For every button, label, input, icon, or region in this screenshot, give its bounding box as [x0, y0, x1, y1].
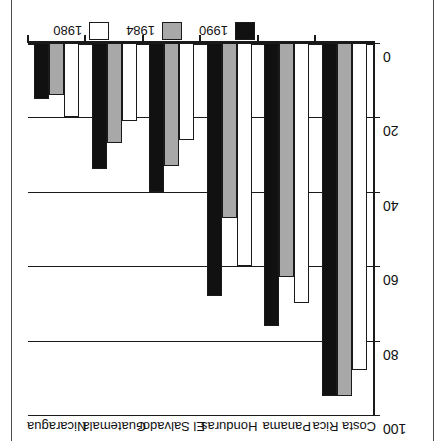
bar-group: Panama: [258, 43, 316, 415]
category-tick: [27, 35, 29, 43]
bar: [164, 43, 179, 166]
bar: [149, 43, 164, 192]
tick-label-20: 20: [383, 124, 419, 138]
category-label: Costa Rica: [312, 419, 376, 434]
legend-entry[interactable]: 1984: [126, 22, 182, 40]
legend-label: 1984: [126, 25, 155, 38]
bar-chart-figure: 020406080100 Costa RicaPanamaHondurasEl …: [14, 4, 430, 437]
bar-group: El Salvador: [143, 43, 201, 415]
legend-swatch-1990: [235, 22, 255, 40]
tick-mark-40: [373, 192, 380, 193]
bar: [207, 43, 222, 296]
legend-label: 1990: [199, 25, 228, 38]
category-label: Panama: [263, 419, 311, 434]
legend-swatch-1980: [89, 22, 109, 40]
bar-group: Nicaragua: [28, 43, 86, 415]
tick-label-60: 60: [383, 273, 419, 287]
bar: [122, 43, 137, 121]
tick-label-0: 0: [383, 50, 419, 64]
bar: [264, 43, 279, 326]
category-label: Guatemala: [82, 419, 146, 434]
bar: [49, 43, 64, 95]
bar: [64, 43, 79, 117]
tick-label-40: 40: [383, 199, 419, 213]
bar: [237, 43, 252, 266]
bar: [352, 43, 367, 370]
category-label: Honduras: [201, 419, 257, 434]
tick-label-100: 100: [383, 422, 419, 436]
category-tick: [257, 35, 259, 43]
bar-group: Costa Rica: [316, 43, 374, 415]
tick-mark-0: [373, 43, 380, 44]
tick-mark-20: [373, 117, 380, 118]
chart-legend: 199019841980: [53, 22, 255, 40]
legend-label: 1980: [53, 25, 82, 38]
plot-area: 020406080100 Costa RicaPanamaHondurasEl …: [28, 41, 375, 415]
bar: [222, 43, 237, 218]
bar: [294, 43, 309, 303]
gridline-100: [28, 415, 373, 416]
bar: [107, 43, 122, 143]
bar: [92, 43, 107, 169]
bar: [322, 43, 337, 396]
bar-group: Guatemala: [86, 43, 144, 415]
tick-mark-100: [373, 415, 380, 416]
legend-entry[interactable]: 1990: [199, 22, 255, 40]
bar: [34, 43, 49, 99]
bar: [337, 43, 352, 396]
bar-group: Honduras: [201, 43, 259, 415]
bar: [279, 43, 294, 277]
tick-mark-80: [373, 341, 380, 342]
page-rule-left: [11, 0, 12, 441]
legend-entry[interactable]: 1980: [53, 22, 109, 40]
category-label: El Salvador: [139, 419, 205, 434]
bar: [179, 43, 194, 140]
tick-mark-60: [373, 266, 380, 267]
page-rule-right: [433, 0, 434, 441]
tick-label-80: 80: [383, 348, 419, 362]
category-tick: [315, 35, 317, 43]
category-label: Nicaragua: [27, 419, 86, 434]
legend-swatch-1984: [162, 22, 182, 40]
